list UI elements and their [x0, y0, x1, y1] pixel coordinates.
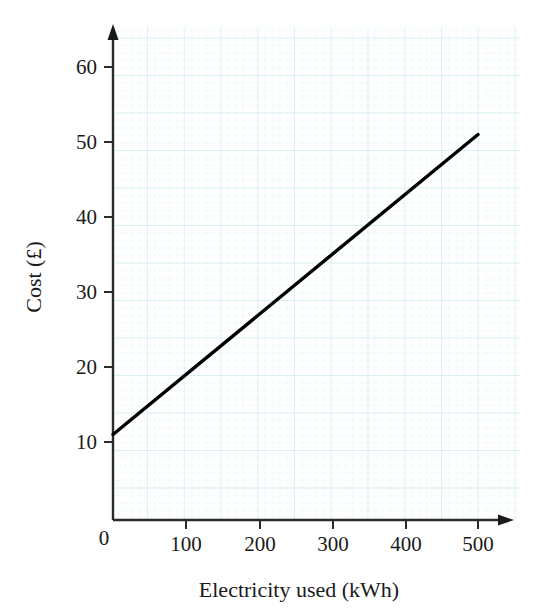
chart-figure: 60 50 40 30 20 10 0 100 200 300 400 500 … [0, 0, 539, 616]
y-tick-label-20: 20 [76, 355, 97, 379]
x-tick-label-500: 500 [462, 532, 494, 556]
chart-gridlines [113, 27, 520, 520]
x-tick-label-400: 400 [390, 532, 422, 556]
y-tick-label-30: 30 [76, 280, 97, 304]
y-tick-label-50: 50 [76, 130, 97, 154]
y-tick-label-60: 60 [76, 55, 97, 79]
y-axis-title: Cost (£) [21, 241, 46, 313]
x-axis-title: Electricity used (kWh) [199, 577, 399, 602]
x-tick-label-200: 200 [244, 532, 276, 556]
x-tick-label-300: 300 [317, 532, 349, 556]
x-tick-label-100: 100 [170, 532, 202, 556]
y-tick-label-40: 40 [76, 205, 97, 229]
line-chart-svg: 60 50 40 30 20 10 0 100 200 300 400 500 … [0, 0, 539, 616]
origin-tick-label-0: 0 [99, 526, 110, 550]
y-tick-label-10: 10 [76, 430, 97, 454]
